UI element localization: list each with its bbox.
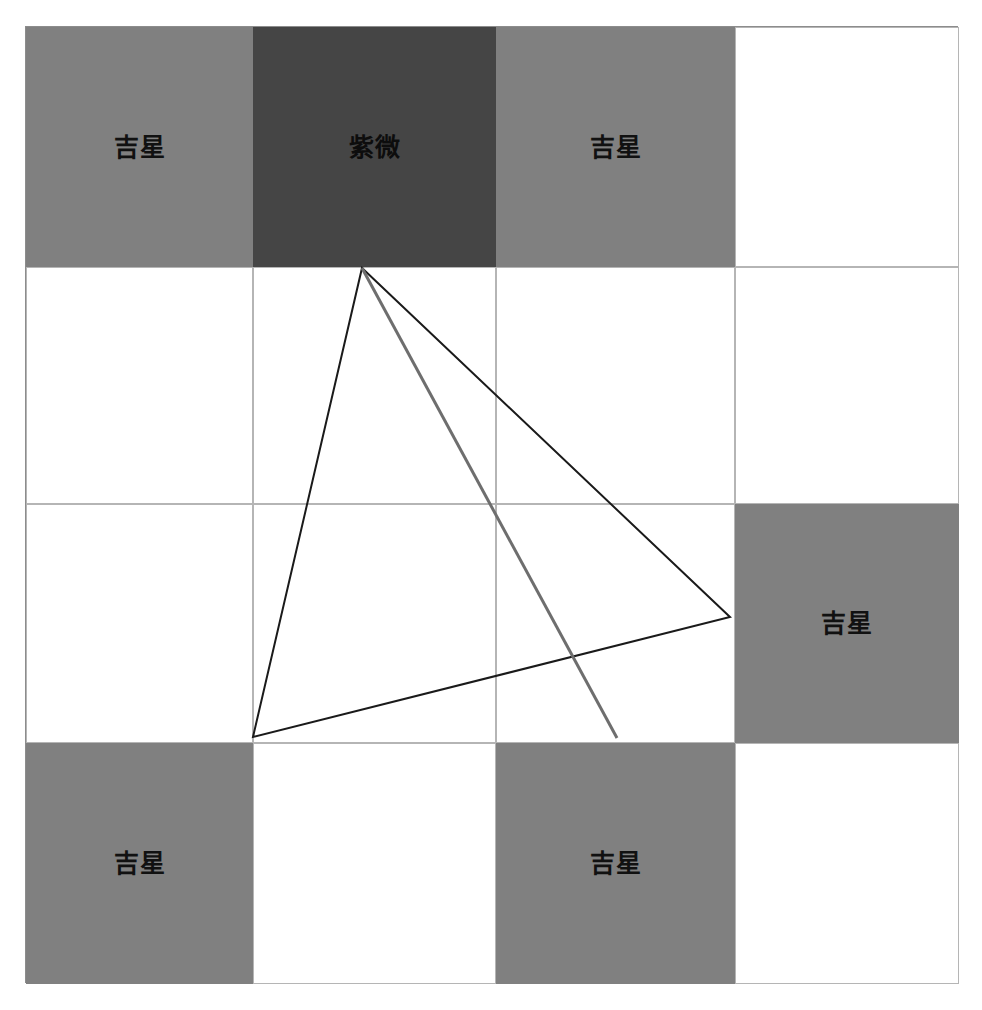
palace-cell-label: 吉星 [114,135,166,160]
palace-cell-empty[interactable] [253,267,496,504]
palace-cell-label: 吉星 [590,135,642,160]
palace-cell-empty[interactable] [26,267,253,504]
palace-cell-label: 紫微 [349,135,401,160]
palace-cell-empty[interactable] [735,743,959,984]
palace-cell-label: 吉星 [590,851,642,876]
palace-cell-star[interactable]: 吉星 [735,504,959,743]
palace-cell-empty[interactable] [26,504,253,743]
palace-cell-star[interactable]: 吉星 [496,27,735,267]
palace-cell-empty[interactable] [735,27,959,267]
palace-cell-empty[interactable] [253,743,496,984]
palace-cell-star[interactable]: 吉星 [26,743,253,984]
chart-canvas: 吉星紫微吉星吉星吉星吉星 [0,0,982,1010]
palace-cell-empty[interactable] [496,267,735,504]
palace-cell-empty[interactable] [735,267,959,504]
palace-cell-empty[interactable] [496,504,735,743]
palace-cell-empty[interactable] [253,504,496,743]
palace-cell-label: 吉星 [821,611,873,636]
palace-cell-star[interactable]: 吉星 [26,27,253,267]
palace-cell-label: 吉星 [114,851,166,876]
palace-cell-star[interactable]: 紫微 [253,27,496,267]
palace-cell-star[interactable]: 吉星 [496,743,735,984]
chart-frame: 吉星紫微吉星吉星吉星吉星 [25,26,958,983]
